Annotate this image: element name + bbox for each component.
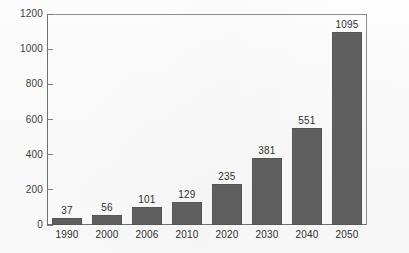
y-axis-tick (47, 84, 53, 85)
y-axis-tick (47, 49, 53, 50)
bar (332, 32, 362, 225)
y-axis-tick (47, 225, 53, 226)
x-axis-tick-label: 2050 (322, 229, 372, 240)
bar-chart-figure: 020040060080010001200 371990562000101200… (0, 0, 409, 253)
bar (252, 158, 282, 225)
bar (172, 202, 202, 225)
bar-value-label: 381 (242, 145, 292, 156)
bar-value-label: 1095 (322, 19, 372, 30)
bars-layer: 3719905620001012006129201023520203812030… (0, 0, 409, 253)
bar (292, 128, 322, 225)
bar-value-label: 551 (282, 115, 332, 126)
bar (52, 218, 82, 225)
bar (132, 207, 162, 225)
y-axis-tick (47, 14, 53, 15)
bar (212, 184, 242, 225)
y-axis-tick (47, 154, 53, 155)
bar-value-label: 129 (162, 189, 212, 200)
bar-value-label: 235 (202, 171, 252, 182)
y-axis-tick (47, 119, 53, 120)
bar (92, 215, 122, 225)
y-axis-tick (47, 189, 53, 190)
